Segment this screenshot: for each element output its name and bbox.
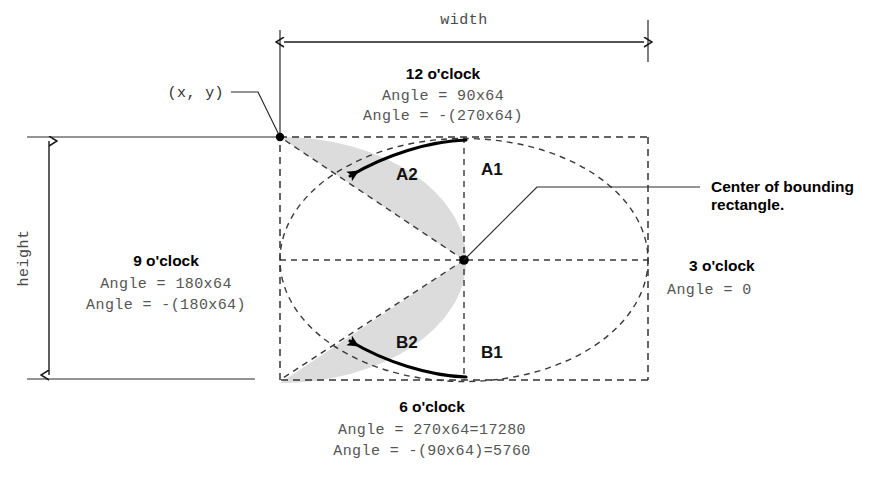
arc-label-b2: B2	[396, 333, 418, 352]
center-note-line1: Center of bounding	[711, 178, 854, 195]
height-label: height	[16, 229, 33, 286]
center-note-line2: rectangle.	[711, 196, 784, 213]
center-callout: Center of bounding rectangle.	[459, 178, 854, 265]
clock-three-line-0: Angle = 0	[667, 282, 752, 299]
center-leader-line	[464, 187, 700, 260]
clock-three-title: 3 o'clock	[689, 257, 755, 274]
clock-six-title: 6 o'clock	[399, 398, 465, 415]
clock-label-six: 6 o'clock Angle = 270x64=17280 Angle = -…	[333, 398, 530, 460]
arc-label-a2: A2	[396, 165, 418, 184]
clock-label-twelve: 12 o'clock Angle = 90x64 Angle = -(270x6…	[363, 65, 523, 125]
clock-label-nine: 9 o'clock Angle = 180x64 Angle = -(180x6…	[86, 252, 246, 314]
origin-label: (x, y)	[168, 85, 224, 102]
clock-nine-line-0: Angle = 180x64	[100, 276, 232, 293]
clock-twelve-line-0: Angle = 90x64	[382, 88, 504, 105]
arc-label-b1: B1	[481, 343, 503, 362]
clock-twelve-title: 12 o'clock	[406, 65, 481, 82]
diagram-canvas: width height (x, y) Center of bounding r…	[0, 0, 881, 488]
clock-nine-title: 9 o'clock	[133, 252, 199, 269]
clock-six-line-0: Angle = 270x64=17280	[338, 422, 526, 439]
origin-callout: (x, y)	[168, 85, 285, 141]
origin-point-dot	[276, 133, 284, 141]
arc-label-a1: A1	[481, 160, 503, 179]
origin-leader-line	[231, 92, 280, 137]
clock-six-line-1: Angle = -(90x64)=5760	[333, 443, 530, 460]
clock-nine-line-1: Angle = -(180x64)	[86, 297, 246, 314]
clock-label-three: 3 o'clock Angle = 0	[667, 257, 755, 299]
width-label: width	[440, 12, 488, 29]
clock-twelve-line-1: Angle = -(270x64)	[363, 108, 523, 125]
arc-angle-diagram: width height (x, y) Center of bounding r…	[0, 0, 881, 488]
